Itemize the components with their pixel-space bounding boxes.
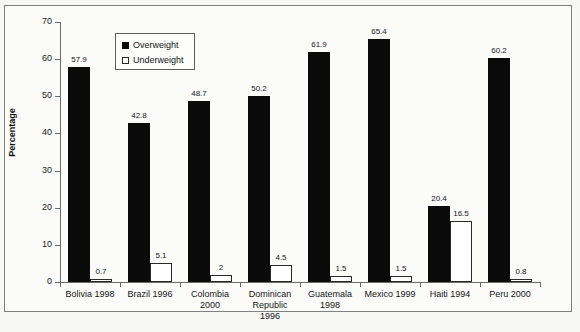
bar-overweight-4 [308,52,330,282]
y-axis-tick-label-text: 10 [30,240,52,249]
bar-value-label: 1.5 [323,265,359,273]
bar-value-label: 50.2 [241,85,277,93]
bar-value-label: 0.7 [83,268,119,276]
bar-value-label: 20.4 [421,195,457,203]
x-axis-tick [360,283,361,287]
x-axis-tick [300,283,301,287]
x-axis-category-label-line: Haiti 1994 [418,289,482,300]
bar-overweight-0 [68,67,90,282]
y-axis-tick [55,59,60,60]
bar-value-label: 2 [203,264,239,272]
x-axis-tick [240,283,241,287]
bar-underweight-5 [390,276,412,282]
y-axis-tick-label-text: 70 [30,17,52,26]
bar-value-label: 57.9 [61,56,97,64]
y-axis-tick-label-text: 60 [30,54,52,63]
y-axis-tick-label-text: 40 [30,128,52,137]
x-axis-category-label: Bolivia 1998 [58,289,122,300]
bar-value-label: 1.5 [383,265,419,273]
bar-underweight-6 [450,221,472,282]
chart-figure: Percentage 706050403020100 57.90.742.85.… [0,0,580,332]
x-axis-category-label: Haiti 1994 [418,289,482,300]
y-axis-tick [55,208,60,209]
x-axis-tick [180,283,181,287]
legend-item-underweight: Underweight [122,54,184,66]
filled-square-icon [122,42,129,49]
bar-overweight-7 [488,58,510,282]
bar-value-label: 42.8 [121,112,157,120]
x-axis-category-label-line: Brazil 1996 [118,289,182,300]
x-axis-category-label: Mexico 1999 [358,289,422,300]
y-axis-tick-label: 0 [26,277,52,286]
chart-legend: Overweight Underweight [115,33,195,70]
y-axis-tick-label: 70 [26,17,52,26]
x-axis-category-label: Brazil 1996 [118,289,182,300]
bar-value-label: 0.8 [503,268,539,276]
x-axis-category-label-line: Republic [238,300,302,311]
y-axis-tick-label-text: 50 [30,91,52,100]
x-axis-category-label-line: Peru 2000 [478,289,542,300]
hollow-square-icon [122,57,129,64]
y-axis-tick [55,22,60,23]
y-axis-tick-label: 40 [26,128,52,137]
y-axis-tick-label: 30 [26,166,52,175]
y-axis-tick-label: 60 [26,54,52,63]
x-axis-category-label-line: Guatemala [298,289,362,300]
bar-value-label: 61.9 [301,41,337,49]
bar-value-label: 65.4 [361,28,397,36]
x-axis-category-label-line: Colombia [178,289,242,300]
x-axis-category-label-line: Bolivia 1998 [58,289,122,300]
y-axis-tick-label-text: 20 [30,203,52,212]
legend-item-label: Underweight [133,56,184,65]
x-axis-category-label: Guatemala1998 [298,289,362,311]
x-axis-tick [540,283,541,287]
x-axis-category-label: Colombia2000 [178,289,242,311]
x-axis-tick [120,283,121,287]
x-axis-category-label-line: Dominican [238,289,302,300]
bar-underweight-4 [330,276,352,282]
legend-item-label: Overweight [133,41,179,50]
bar-value-label: 4.5 [263,254,299,262]
x-axis-category-label-line: 1996 [238,311,302,322]
y-axis-tick-label: 50 [26,91,52,100]
y-axis-tick [55,171,60,172]
x-axis-category-label-line: 1998 [298,300,362,311]
y-axis-title: Percentage [8,73,17,193]
x-axis-tick [420,283,421,287]
bar-underweight-7 [510,279,532,282]
x-axis-category-label-line: Mexico 1999 [358,289,422,300]
bar-underweight-1 [150,263,172,282]
bar-value-label: 60.2 [481,47,517,55]
y-axis-tick-label-text: 0 [30,277,52,286]
y-axis-tick-label: 20 [26,203,52,212]
bar-value-label: 5.1 [143,252,179,260]
bar-overweight-5 [368,39,390,282]
y-axis-tick [55,133,60,134]
bar-underweight-0 [90,279,112,282]
x-axis-category-label: Peru 2000 [478,289,542,300]
bar-underweight-2 [210,275,232,282]
y-axis-tick-label: 10 [26,240,52,249]
bar-value-label: 16.5 [443,210,479,218]
y-axis-tick-label-text: 30 [30,166,52,175]
x-axis-tick [60,283,61,287]
legend-item-overweight: Overweight [122,39,179,51]
x-axis-category-label-line: 2000 [178,300,242,311]
x-axis-category-label: DominicanRepublic1996 [238,289,302,322]
y-axis-tick [55,245,60,246]
x-axis-tick [480,283,481,287]
bar-overweight-2 [188,101,210,282]
bar-underweight-3 [270,265,292,282]
y-axis-tick [55,96,60,97]
bar-value-label: 48.7 [181,90,217,98]
